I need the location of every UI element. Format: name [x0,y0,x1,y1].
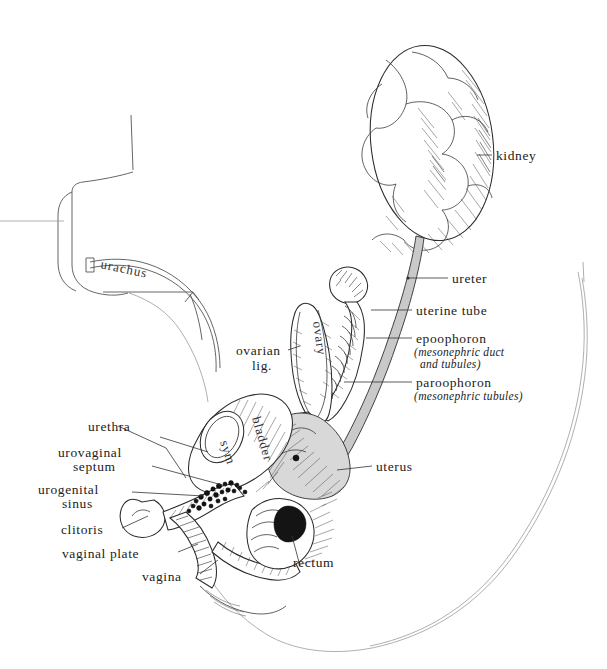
illustration-canvas: ovary bladder [0,0,607,669]
urachus-structure [86,258,220,372]
label-sinus: sinus [62,496,93,511]
label-urachus: urachus [99,256,149,281]
pelvic-floor-detail [200,586,286,616]
label-rectum: rectum [293,555,334,570]
label-uterine-tube: uterine tube [416,303,487,318]
kidney-organ [360,38,505,255]
label-clitoris: clitoris [61,522,103,537]
label-vagina: vagina [142,569,182,584]
label-paroophoron: paroophoron [416,375,492,390]
label-ovarian-lig: ovarian [236,343,281,358]
label-uterus: uterus [376,459,413,474]
label-vaginal-plate: vaginal plate [62,546,139,561]
label-epoophoron: epoophoron [416,331,487,346]
label-urogenital: urogenital [38,482,99,497]
label-paroophoron-sub: (mesonephric tubules) [414,390,523,403]
label-septum: septum [73,459,116,474]
label-urethra: urethra [88,419,130,434]
label-urovaginal: urovaginal [58,445,122,460]
label-ureter: ureter [452,271,487,286]
label-kidney: kidney [496,148,536,163]
label-ovarian-lig-2: lig. [252,358,272,373]
label-epoophoron-sub-2: and tubules) [420,358,481,371]
